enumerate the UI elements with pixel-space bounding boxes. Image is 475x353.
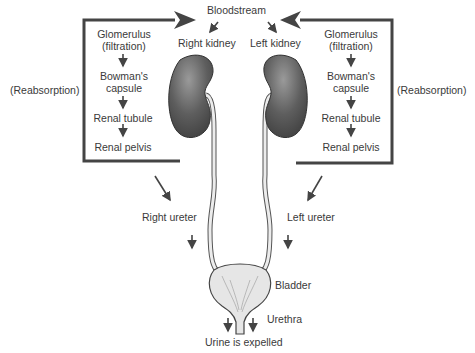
- right-step-capsule: capsule: [96, 82, 152, 94]
- left-ureter-label: Left ureter: [287, 211, 335, 223]
- right-ureter-label: Right ureter: [142, 211, 197, 223]
- left-step-bowmans: Bowman's: [323, 70, 379, 82]
- right-step-glomerulus: Glomerulus: [96, 28, 152, 40]
- arrow-to-right-kidney: [210, 22, 218, 32]
- left-step-renal-pelvis: Renal pelvis: [318, 141, 384, 153]
- reabsorption-label-left: (Reabsorption): [10, 84, 79, 96]
- right-step-filtration: (filtration): [96, 40, 152, 52]
- left-kidney-shape: [264, 55, 307, 137]
- left-step-renal-tubule: Renal tubule: [318, 112, 384, 124]
- bladder-shape: [209, 264, 270, 334]
- left-step-glomerulus: Glomerulus: [323, 28, 379, 40]
- bladder-label: Bladder: [275, 279, 311, 291]
- left-step-filtration: (filtration): [323, 40, 379, 52]
- bloodstream-label: Bloodstream: [207, 4, 266, 16]
- arrow-to-left-kidney: [268, 22, 276, 32]
- right-step-renal-tubule: Renal tubule: [90, 112, 156, 124]
- left-step-capsule: capsule: [323, 82, 379, 94]
- urine-expelled-label: Urine is expelled: [205, 336, 283, 348]
- urethra-label: Urethra: [267, 313, 302, 325]
- diagram-graphics: [0, 0, 475, 353]
- reabsorption-label-right: (Reabsorption): [397, 84, 466, 96]
- left-kidney-label: Left kidney: [250, 37, 301, 49]
- right-step-bowmans: Bowman's: [96, 70, 152, 82]
- right-step-renal-pelvis: Renal pelvis: [90, 141, 156, 153]
- urinary-system-diagram: Bloodstream Right kidney Left kidney Glo…: [0, 0, 475, 353]
- right-kidney-label: Right kidney: [178, 37, 236, 49]
